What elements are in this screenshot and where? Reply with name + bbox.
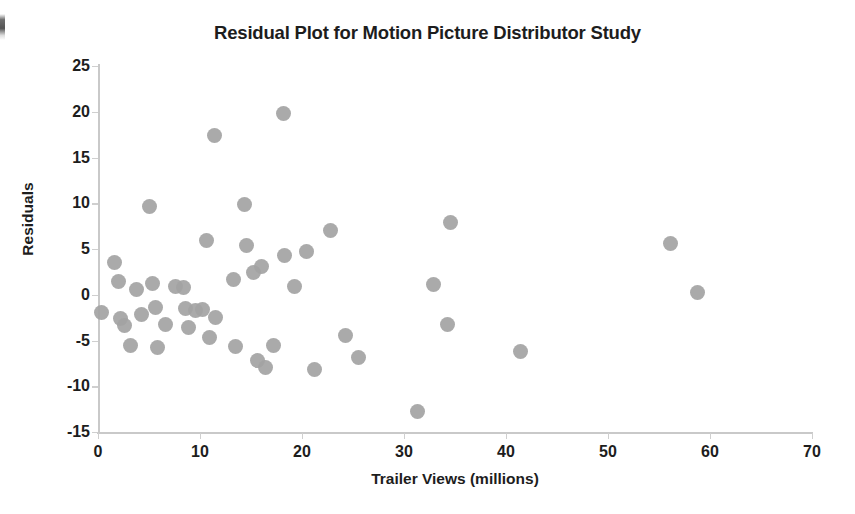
x-axis-tick-label-text: 20 <box>272 442 332 462</box>
x-axis-tick <box>200 433 201 439</box>
scatter-point <box>176 280 191 295</box>
x-axis-tick-label: 20 <box>272 442 332 462</box>
scatter-point <box>299 244 314 259</box>
y-axis-tick-label-text: 0 <box>46 287 90 303</box>
scatter-point <box>107 255 122 270</box>
y-axis-tick-label: -10 <box>38 378 90 394</box>
scatter-point <box>351 350 366 365</box>
scatter-point <box>208 310 223 325</box>
x-axis-tick-label-text: 50 <box>578 442 638 462</box>
scatter-point <box>237 197 252 212</box>
scatter-point <box>148 300 163 315</box>
scatter-point <box>287 279 302 294</box>
scatter-point <box>123 338 138 353</box>
scatter-point <box>307 362 322 377</box>
plot-area <box>98 66 812 432</box>
scatter-point <box>239 238 254 253</box>
scatter-point <box>513 344 528 359</box>
scatter-point <box>181 320 196 335</box>
scatter-point <box>117 318 132 333</box>
y-axis-title: Residuals <box>19 159 37 279</box>
x-axis-tick-label-text: 10 <box>170 442 230 462</box>
scatter-point <box>254 259 269 274</box>
y-axis-tick-label-text: -10 <box>46 378 90 394</box>
y-axis-tick-label: 25 <box>38 58 90 74</box>
scatter-point <box>440 317 455 332</box>
x-axis-title: Trailer Views (millions) <box>98 470 812 488</box>
scatter-point <box>142 199 157 214</box>
scatter-point <box>150 340 165 355</box>
y-axis-tick-label: 20 <box>38 104 90 120</box>
x-axis-tick <box>404 433 405 439</box>
x-axis-tick-label-text: 30 <box>374 442 434 462</box>
chart-title: Residual Plot for Motion Picture Distrib… <box>0 22 855 44</box>
y-axis-tick-label-text: -15 <box>46 424 90 440</box>
x-axis-tick <box>302 433 303 439</box>
y-axis-tick-label-text: 20 <box>46 104 90 120</box>
scatter-point <box>228 339 243 354</box>
scatter-point <box>266 338 281 353</box>
y-axis-tick-label: 10 <box>38 195 90 211</box>
scatter-point <box>426 277 441 292</box>
x-axis-tick-label: 0 <box>68 442 128 462</box>
y-axis-tick-label: 5 <box>38 241 90 257</box>
y-axis-tick-label: 0 <box>38 287 90 303</box>
x-axis-tick-label-text: 0 <box>68 442 128 462</box>
y-axis-tick-label-text: 5 <box>46 241 90 257</box>
x-axis-tick-label: 50 <box>578 442 638 462</box>
scatter-point <box>134 307 149 322</box>
x-axis-tick-label-text: 40 <box>476 442 536 462</box>
scatter-point <box>226 272 241 287</box>
x-axis-tick-label: 10 <box>170 442 230 462</box>
y-axis-tick-label-text: 25 <box>46 58 90 74</box>
scatter-point <box>202 330 217 345</box>
scatter-point <box>410 404 425 419</box>
scatter-point <box>276 106 291 121</box>
y-axis-tick-label-text: -5 <box>46 333 90 349</box>
scatter-point <box>158 317 173 332</box>
y-axis-tick-label: -15 <box>38 424 90 440</box>
scatter-point <box>690 285 705 300</box>
scatter-point <box>207 128 222 143</box>
x-axis-tick <box>608 433 609 439</box>
scatter-point <box>277 248 292 263</box>
x-axis-tick-label: 70 <box>782 442 842 462</box>
scatter-point <box>145 276 160 291</box>
scatter-point <box>258 360 273 375</box>
x-axis-tick <box>812 433 813 439</box>
x-axis-tick <box>506 433 507 439</box>
y-axis-tick-label-text: 15 <box>46 150 90 166</box>
scatter-point <box>199 233 214 248</box>
scatter-point <box>94 305 109 320</box>
scatter-point <box>111 274 126 289</box>
x-axis-tick-label: 30 <box>374 442 434 462</box>
scatter-point <box>443 215 458 230</box>
x-axis-line <box>97 432 813 434</box>
x-axis-tick-label-text: 70 <box>782 442 842 462</box>
y-axis-tick-label: -5 <box>38 333 90 349</box>
x-axis-tick-label-text: 60 <box>680 442 740 462</box>
scatter-point <box>663 236 678 251</box>
x-axis-tick <box>98 433 99 439</box>
y-axis-tick-label: 15 <box>38 150 90 166</box>
scatter-point <box>323 223 338 238</box>
scatter-point <box>129 282 144 297</box>
residual-scatter-chart: Residual Plot for Motion Picture Distrib… <box>0 0 855 514</box>
x-axis-tick <box>710 433 711 439</box>
x-axis-tick-label: 60 <box>680 442 740 462</box>
y-axis-tick-label-text: 10 <box>46 195 90 211</box>
scatter-point <box>338 328 353 343</box>
x-axis-tick-label: 40 <box>476 442 536 462</box>
